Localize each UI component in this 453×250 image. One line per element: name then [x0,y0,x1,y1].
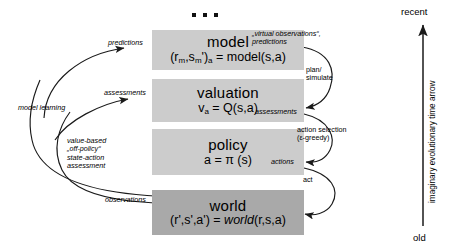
time-axis-bottom-label: old [413,232,426,243]
time-axis-caption: imaginary evolutionary time arrow [428,81,437,203]
time-axis-layer [0,0,453,250]
diagram-canvas: model (rm,sm')a = model(s,a) valuation v… [0,0,453,250]
time-axis-top-label: recent [401,6,427,17]
